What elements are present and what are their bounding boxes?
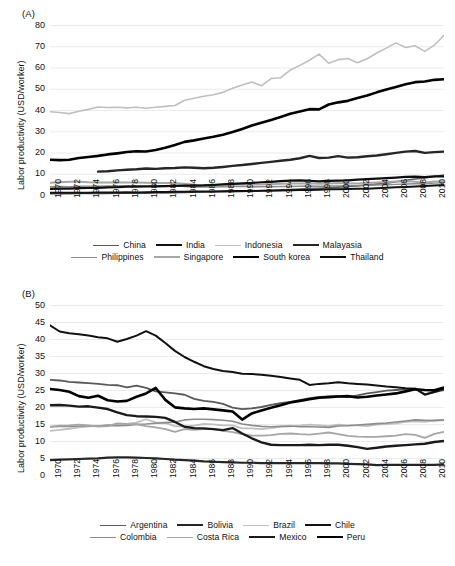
legend-line-icon	[249, 536, 275, 538]
legend-label: Indonesia	[245, 240, 283, 250]
x-tick-label: 1972	[73, 459, 82, 478]
series-line	[50, 388, 444, 420]
y-tick-label: 50	[25, 84, 45, 93]
legend-label: Argentina	[130, 520, 167, 530]
x-tick-label: 2004	[381, 459, 390, 478]
x-tick-label: 2000	[342, 179, 351, 198]
y-tick-label: 20	[25, 403, 45, 412]
legend-label: Singapore	[184, 252, 224, 262]
x-tick-label: 1990	[246, 459, 255, 478]
x-tick-label: 1988	[227, 459, 236, 478]
legend-label: Brazil	[273, 520, 295, 530]
panel-a: (A) Labor productivity (USD/worker) 0102…	[0, 0, 455, 283]
panel-a-tag: (A)	[22, 8, 35, 19]
legend-label: South korea	[263, 252, 310, 262]
x-tick-label: 1994	[285, 459, 294, 478]
legend-label: Philippines	[101, 252, 143, 262]
legend-item-chile[interactable]: Chile	[305, 520, 355, 530]
x-tick-label: 1976	[112, 179, 121, 198]
x-tick-label: 1986	[208, 459, 217, 478]
legend-item-china[interactable]: China	[93, 240, 146, 250]
legend-item-india[interactable]: India	[156, 240, 205, 250]
legend-line-icon	[233, 256, 259, 258]
x-tick-label: 1974	[92, 459, 101, 478]
x-tick-label: 1970	[54, 179, 63, 198]
x-tick-label: 1978	[131, 459, 140, 478]
x-tick-label: 1982	[169, 179, 178, 198]
y-tick-label: 0	[25, 471, 45, 480]
legend-row: ChinaIndiaIndonesiaMalayasia	[88, 240, 366, 250]
legend-label: China	[123, 240, 146, 250]
legend-label: Thailand	[350, 252, 383, 262]
legend-line-icon	[156, 244, 182, 246]
x-tick-label: 2008	[419, 179, 428, 198]
x-tick-label: 1998	[323, 179, 332, 198]
legend-item-bolivia[interactable]: Bolivia	[177, 520, 233, 530]
legend-item-south-korea[interactable]: South korea	[233, 252, 310, 262]
x-tick-label: 1978	[131, 179, 140, 198]
y-tick-label: 0	[25, 191, 45, 200]
legend-label: India	[186, 240, 205, 250]
legend-line-icon	[93, 245, 119, 246]
y-tick-label: 30	[25, 369, 45, 378]
x-tick-label: 2006	[400, 459, 409, 478]
legend-item-singapore[interactable]: Singapore	[154, 252, 224, 262]
x-tick-label: 2010	[438, 179, 447, 198]
legend-label: Bolivia	[207, 520, 233, 530]
panel-b-plot-area	[50, 305, 444, 475]
legend-line-icon	[90, 537, 116, 538]
x-tick-label: 1996	[304, 459, 313, 478]
y-tick-label: 35	[25, 352, 45, 361]
legend-row: PhilippinesSingaporeSouth koreaThailand	[66, 252, 388, 262]
x-tick-label: 1980	[150, 179, 159, 198]
legend-line-icon	[177, 524, 203, 526]
series-line	[50, 79, 444, 160]
x-tick-label: 1972	[73, 179, 82, 198]
figure-sheet: (A) Labor productivity (USD/worker) 0102…	[0, 0, 455, 566]
legend-item-argentina[interactable]: Argentina	[100, 520, 167, 530]
legend-label: Peru	[347, 532, 365, 542]
plot-svg	[50, 25, 444, 195]
x-tick-label: 1990	[246, 179, 255, 198]
x-tick-label: 2002	[362, 179, 371, 198]
legend-item-costa-rica[interactable]: Costa Rica	[167, 532, 240, 542]
y-tick-label: 10	[25, 169, 45, 178]
legend-item-philippines[interactable]: Philippines	[71, 252, 143, 262]
x-tick-label: 1988	[227, 179, 236, 198]
legend-item-peru[interactable]: Peru	[317, 532, 365, 542]
panel-a-legend: ChinaIndiaIndonesiaMalayasiaPhilippinesS…	[0, 240, 455, 262]
x-tick-label: 1980	[150, 459, 159, 478]
x-tick-label: 2002	[362, 459, 371, 478]
x-tick-label: 1984	[189, 179, 198, 198]
x-tick-label: 1992	[265, 459, 274, 478]
y-tick-label: 70	[25, 42, 45, 51]
legend-item-colombia[interactable]: Colombia	[90, 532, 157, 542]
legend-line-icon	[243, 525, 269, 526]
x-tick-label: 1982	[169, 459, 178, 478]
legend-label: Colombia	[120, 532, 157, 542]
y-tick-label: 80	[25, 21, 45, 30]
legend-item-mexico[interactable]: Mexico	[249, 532, 307, 542]
legend-row: ArgentinaBoliviaBrazilChile	[95, 520, 360, 530]
series-line	[98, 151, 444, 172]
plot-svg	[50, 305, 444, 475]
legend-line-icon	[167, 537, 193, 538]
series-line	[50, 405, 444, 449]
legend-line-icon	[305, 524, 331, 526]
y-tick-label: 15	[25, 420, 45, 429]
legend-label: Mexico	[279, 532, 307, 542]
x-tick-label: 1984	[189, 459, 198, 478]
x-tick-label: 1970	[54, 459, 63, 478]
y-tick-label: 25	[25, 386, 45, 395]
panel-b-legend: ArgentinaBoliviaBrazilChileColombiaCosta…	[0, 520, 455, 542]
x-tick-label: 1994	[285, 179, 294, 198]
legend-line-icon	[317, 536, 343, 538]
legend-item-indonesia[interactable]: Indonesia	[215, 240, 283, 250]
legend-item-thailand[interactable]: Thailand	[320, 252, 383, 262]
legend-line-icon	[293, 244, 319, 246]
legend-line-icon	[320, 256, 346, 258]
legend-item-brazil[interactable]: Brazil	[243, 520, 295, 530]
legend-item-malayasia[interactable]: Malayasia	[293, 240, 362, 250]
x-tick-label: 1998	[323, 459, 332, 478]
legend-label: Costa Rica	[197, 532, 240, 542]
